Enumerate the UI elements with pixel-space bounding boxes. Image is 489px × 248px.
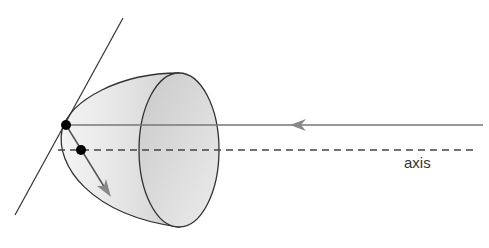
axis-label: axis: [404, 154, 431, 171]
focus-point: [76, 145, 86, 155]
reflection-point: [61, 120, 71, 130]
reflector-diagram: [0, 0, 489, 248]
diagram-canvas: axis: [0, 0, 489, 248]
